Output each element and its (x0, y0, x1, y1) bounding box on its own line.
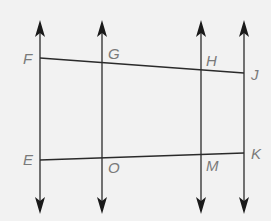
label-m: M (206, 158, 219, 173)
label-e: E (23, 152, 33, 167)
label-h: H (206, 53, 217, 68)
label-o: O (108, 160, 120, 175)
label-j: J (251, 67, 259, 82)
label-k: K (251, 146, 261, 161)
diagram-canvas (0, 0, 271, 221)
label-g: G (108, 46, 120, 61)
label-f: F (23, 51, 32, 66)
